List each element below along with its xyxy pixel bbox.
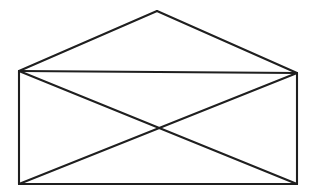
figure-canvas <box>0 0 315 195</box>
envelope-figure-svg <box>0 0 315 195</box>
drawing-background <box>0 0 315 195</box>
